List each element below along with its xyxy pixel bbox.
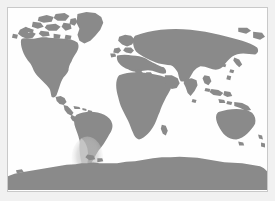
world-map-figure xyxy=(0,0,275,201)
map-frame xyxy=(7,7,268,192)
world-map-svg xyxy=(8,8,267,191)
